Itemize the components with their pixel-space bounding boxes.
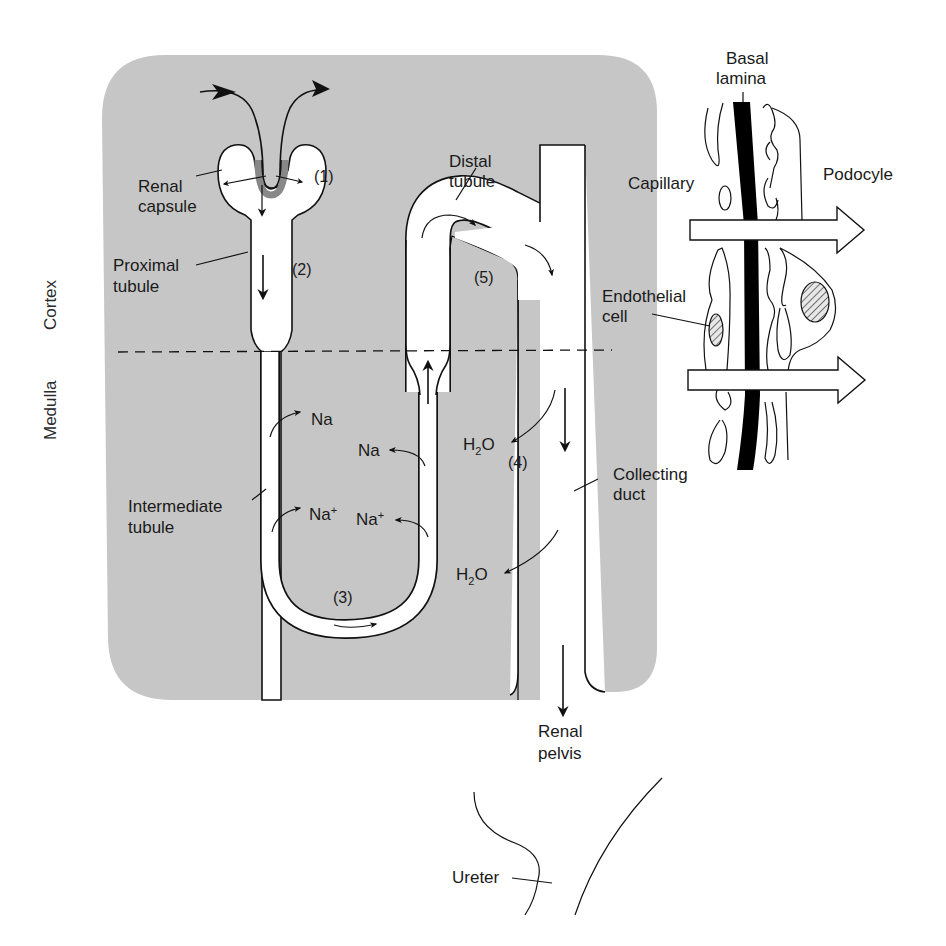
leader-endothelial-cell	[652, 314, 710, 326]
nephron-diagram: Renal capsule Proximal tubule (1) (2) (3…	[0, 0, 946, 946]
label-renal-pelvis-1: Renal	[538, 722, 582, 741]
filtration-barrier-inset	[688, 92, 865, 470]
label-intermediate-tubule-2: tubule	[128, 518, 174, 537]
label-ureter: Ureter	[452, 868, 500, 887]
ion-na-ascending-upper: Na	[358, 441, 380, 460]
step-5: (5)	[474, 269, 494, 286]
label-capillary: Capillary	[628, 174, 695, 193]
label-collecting-duct-1: Collecting	[613, 465, 688, 484]
podocyte-nucleus	[801, 282, 829, 322]
label-renal-capsule-1: Renal	[138, 177, 182, 196]
label-podocyte: Podocyle	[823, 165, 893, 184]
label-endothelial-cell-2: cell	[602, 307, 628, 326]
step-4: (4)	[508, 454, 528, 471]
label-proximal-tubule-1: Proximal	[113, 256, 179, 275]
label-collecting-duct-2: duct	[613, 485, 645, 504]
label-renal-capsule-2: capsule	[138, 197, 197, 216]
ion-na-descending-upper: Na	[311, 410, 333, 429]
leader-ureter	[512, 878, 552, 883]
label-renal-pelvis-2: pelvis	[538, 744, 581, 763]
region-cortex: Cortex	[41, 279, 60, 330]
ureter	[474, 778, 662, 915]
region-medulla: Medulla	[41, 380, 60, 440]
filtration-hollow-arrow-upper	[690, 207, 864, 253]
label-basal-lamina-2: lamina	[716, 69, 767, 88]
label-intermediate-tubule-1: Intermediate	[128, 497, 223, 516]
step-2: (2)	[292, 261, 312, 278]
label-basal-lamina-1: Basal	[726, 49, 769, 68]
step-3: (3)	[333, 589, 353, 606]
endothelial-nucleus	[709, 314, 723, 346]
label-distal-tubule-1: Distal	[449, 152, 492, 171]
filtration-hollow-arrow-lower	[688, 357, 865, 403]
label-proximal-tubule-2: tubule	[113, 277, 159, 296]
step-1: (1)	[314, 168, 334, 185]
basal-lamina	[733, 102, 760, 470]
label-endothelial-cell-1: Endothelial	[602, 287, 686, 306]
